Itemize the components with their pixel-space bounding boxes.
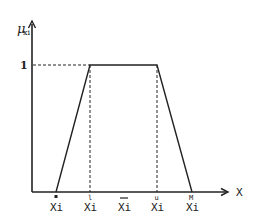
- tick-label-xM: Xi: [186, 201, 199, 214]
- membership-trapezoid: [56, 65, 192, 192]
- tick-m-marker: [55, 195, 58, 198]
- tick-label-xu: Xi: [151, 201, 164, 214]
- x-axis-label: X: [236, 186, 243, 199]
- tick-label-xbar: Xi: [118, 201, 131, 214]
- tick-label-xm: Xi: [50, 201, 63, 214]
- y-tick-label-1: 1: [20, 59, 28, 72]
- membership-function-chart: μ xi X 1 l u M Xi Xi Xi Xi Xi: [0, 0, 259, 222]
- y-axis-label-sub: xi: [23, 28, 31, 37]
- tick-label-xl: Xi: [84, 201, 97, 214]
